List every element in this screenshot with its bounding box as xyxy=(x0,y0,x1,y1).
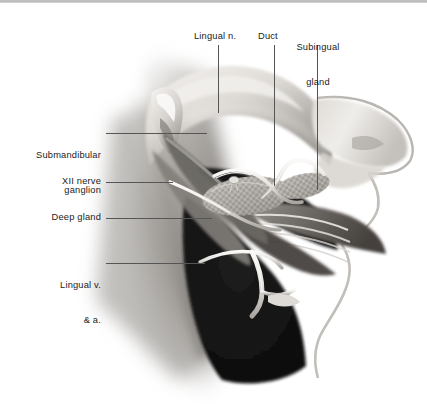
submandibular-ganglion-leader xyxy=(106,133,207,134)
duct-leader xyxy=(274,45,275,186)
label-lingual-vein-artery: Lingual v. & a. xyxy=(17,257,101,350)
xii-nerve-leader xyxy=(106,182,173,183)
label-submandibular-ganglion-line1: Submandibular xyxy=(17,150,101,162)
label-xii-nerve: XII nerve xyxy=(17,176,101,188)
anatomical-figure: Lingual n. Duct Subingual gland Submandi… xyxy=(0,0,427,404)
label-lingual-vein-artery-line2: & a. xyxy=(17,315,101,327)
label-subingual-gland: Subingual gland xyxy=(292,19,344,112)
lingual-n-leader xyxy=(218,45,219,113)
label-submandibular-ganglion: Submandibular ganglion xyxy=(17,127,101,220)
label-subingual-gland-line1: Subingual xyxy=(292,42,344,54)
label-deep-gland: Deep gland xyxy=(17,212,101,224)
lingual-v-a-leader xyxy=(106,263,205,264)
label-lingual-vein-artery-line1: Lingual v. xyxy=(17,280,101,292)
label-duct: Duct xyxy=(258,31,278,43)
label-subingual-gland-line2: gland xyxy=(292,77,344,89)
label-lingual-nerve: Lingual n. xyxy=(194,31,236,43)
deep-gland-leader xyxy=(106,218,212,219)
